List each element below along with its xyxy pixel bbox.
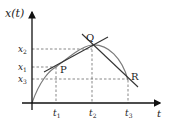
x-tick-t2: t2 xyxy=(89,108,97,119)
x-tick-t3: t3 xyxy=(125,108,133,119)
tangent-at-P xyxy=(44,37,108,72)
position-time-diagram: x(t) t x2 x1 x3 t1 t2 t3 P Q R xyxy=(0,0,169,125)
point-P-label: P xyxy=(60,64,67,75)
x-tick-labels: t1 t2 t3 xyxy=(53,108,133,119)
y-tick-x1: x1 xyxy=(18,62,27,73)
position-curve xyxy=(32,45,128,103)
y-tick-x2: x2 xyxy=(18,44,27,55)
y-tick-x3: x3 xyxy=(18,74,27,85)
point-Q-label: Q xyxy=(86,32,94,43)
y-axis-label: x(t) xyxy=(5,7,24,20)
y-tick-labels: x2 x1 x3 xyxy=(18,44,27,85)
x-axis-label: t xyxy=(157,108,162,119)
x-tick-t1: t1 xyxy=(53,108,60,119)
point-R-label: R xyxy=(131,71,139,82)
